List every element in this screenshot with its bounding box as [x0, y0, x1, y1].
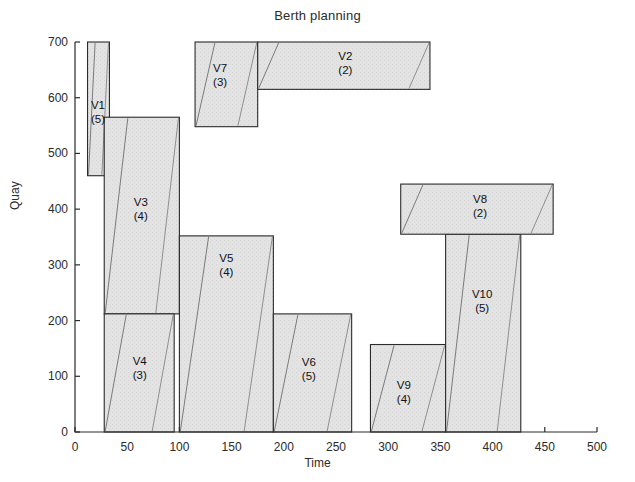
x-tick-label: 300 — [378, 440, 398, 454]
vessel-rect[interactable] — [370, 345, 445, 432]
vessel-rectangles — [88, 42, 554, 432]
vessel-rect[interactable] — [104, 314, 174, 432]
x-tick-label: 400 — [483, 440, 503, 454]
vessel-rect[interactable] — [446, 234, 521, 432]
vessel-block[interactable] — [370, 345, 445, 432]
y-tick-label: 400 — [28, 202, 68, 216]
vessel-block[interactable] — [401, 184, 553, 234]
berth-planning-figure: Berth planning Quay Time 010020030040050… — [0, 0, 635, 482]
y-tick-label: 700 — [28, 35, 68, 49]
vessel-rect[interactable] — [195, 42, 258, 127]
vessel-block[interactable] — [273, 314, 351, 432]
y-tick-label: 100 — [28, 369, 68, 383]
vessel-block[interactable] — [195, 42, 258, 127]
vessel-block[interactable] — [179, 236, 273, 432]
y-tick-label: 0 — [28, 425, 68, 439]
y-tick-label: 200 — [28, 314, 68, 328]
x-tick-label: 0 — [72, 440, 79, 454]
y-tick-label: 300 — [28, 258, 68, 272]
y-tick-label: 500 — [28, 146, 68, 160]
vessel-rect[interactable] — [273, 314, 351, 432]
vessel-block[interactable] — [104, 117, 179, 314]
x-tick-label: 250 — [326, 440, 346, 454]
vessel-block[interactable] — [258, 42, 430, 89]
x-tick-label: 450 — [535, 440, 555, 454]
x-tick-label: 350 — [430, 440, 450, 454]
x-tick-label: 150 — [222, 440, 242, 454]
x-tick-label: 500 — [587, 440, 607, 454]
vessel-rect[interactable] — [401, 184, 553, 234]
y-tick-label: 600 — [28, 91, 68, 105]
x-tick-label: 100 — [169, 440, 189, 454]
vessel-rect[interactable] — [104, 117, 179, 314]
x-tick-label: 50 — [121, 440, 134, 454]
vessel-block[interactable] — [446, 234, 521, 432]
vessel-rect[interactable] — [179, 236, 273, 432]
vessel-rect[interactable] — [258, 42, 430, 89]
berth-planning-plot — [0, 0, 635, 482]
vessel-block[interactable] — [104, 314, 174, 432]
x-tick-label: 200 — [274, 440, 294, 454]
